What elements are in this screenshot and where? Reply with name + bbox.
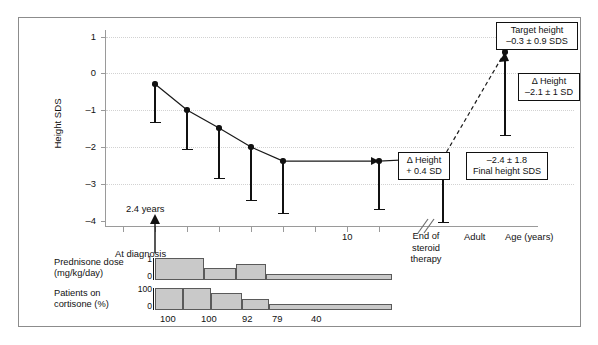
cortisone-value-1: 100 <box>160 313 176 324</box>
prednisone-tick-bottom: 0 <box>146 271 152 281</box>
prednisone-axis <box>153 258 154 280</box>
cortisone-segment-1 <box>155 288 183 310</box>
prednisone-segment-2 <box>204 268 236 280</box>
prednisone-dose-label: Prednisone dose (mg/kg/day) <box>54 257 154 280</box>
cortisone-value-4: 79 <box>272 313 282 324</box>
cortisone-segment-4 <box>242 299 269 310</box>
cortisone-value-2: 100 <box>201 313 217 324</box>
cortisone-axis <box>153 288 154 310</box>
prednisone-segment-1 <box>155 258 204 280</box>
cortisone-value-3: 92 <box>242 313 252 324</box>
figure-container: 1 0 –1 –2 –3 –4 Height SDS 10 Age (years… <box>0 0 598 345</box>
cortisone-tick-top: 100 <box>132 284 152 294</box>
prednisone-segment-3 <box>236 264 266 280</box>
cortisone-segment-2 <box>183 288 211 310</box>
cortisone-segment-3 <box>211 293 242 310</box>
cortisone-tick-bottom: 0 <box>132 301 152 311</box>
cortisone-segment-5 <box>269 304 392 310</box>
prednisone-segment-4 <box>266 274 392 280</box>
cortisone-value-5: 40 <box>311 313 321 324</box>
prednisone-tick-top: 1 <box>146 254 152 264</box>
